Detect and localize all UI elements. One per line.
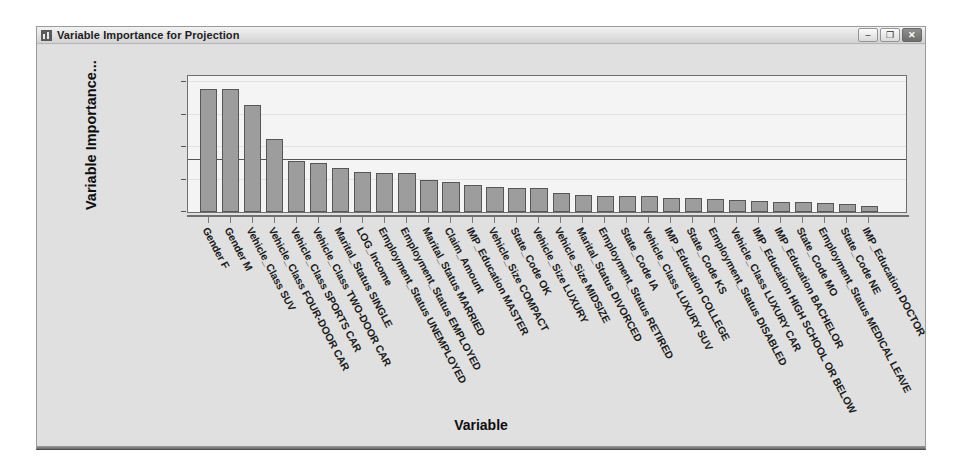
bar [354,172,371,212]
bar [751,201,768,212]
bar [597,196,614,212]
bar [575,195,592,212]
bar [200,89,217,212]
window-title: Variable Importance for Projection [57,29,240,41]
x-tick-mark [406,217,407,223]
x-tick-mark [296,217,297,223]
vip-bar-chart: Variable Importance... 0.00.51.01.52.0 G… [37,45,925,449]
x-tick-mark [560,217,561,223]
x-tick-mark [340,217,341,223]
x-tick-mark [604,217,605,223]
y-tick-mark [181,179,186,180]
chart-bar-icon [41,30,52,41]
bar [773,202,790,212]
x-tick-mark [670,217,671,223]
bar [376,173,393,213]
window-titlebar[interactable]: Variable Importance for Projection – ❐ ✕ [37,27,925,44]
x-axis-tick-labels: Gender FGender MVehicle_Class SUVVehicle… [187,225,927,425]
bar [641,196,658,212]
plot-area [187,75,907,213]
x-tick-mark [428,217,429,223]
x-tick-mark [472,217,473,223]
x-tick-mark [868,217,869,223]
maximize-button[interactable]: ❐ [880,28,900,42]
bar [729,200,746,212]
bar [553,193,570,212]
x-tick-mark [362,217,363,223]
bar [508,188,525,212]
x-tick-mark [230,217,231,223]
bar [420,180,437,212]
y-tick-mark [181,211,186,212]
minimize-icon: – [859,29,877,41]
close-button[interactable]: ✕ [902,28,922,42]
minimize-button[interactable]: – [858,28,878,42]
bar [222,89,239,212]
bar [530,188,547,212]
bar [839,204,856,212]
bar [398,173,415,213]
x-tick-mark [494,217,495,223]
window-bottom-rule [37,446,925,449]
y-tick-mark [181,81,186,82]
bar [464,185,481,212]
x-tick-mark [450,217,451,223]
bar [861,206,878,212]
bar [817,203,834,212]
x-tick-mark [252,217,253,223]
close-icon: ✕ [903,29,921,41]
y-tick-mark [181,114,186,115]
bar [288,161,305,212]
application-window: Variable Importance for Projection – ❐ ✕… [36,26,926,450]
screenshot-root: Variable Importance for Projection – ❐ ✕… [0,0,968,474]
x-tick-mark [692,217,693,223]
bar [619,196,636,212]
x-tick-mark [780,217,781,223]
x-tick-mark [846,217,847,223]
bar [486,187,503,212]
x-tick-mark [824,217,825,223]
x-tick-mark [648,217,649,223]
bar [663,198,680,212]
x-tick-mark [582,217,583,223]
x-tick-mark [208,217,209,223]
bar [244,105,261,213]
bar [795,202,812,212]
maximize-icon: ❐ [881,29,899,41]
x-tick-mark [516,217,517,223]
bar [266,139,283,212]
x-tick-mark [538,217,539,223]
bar [685,198,702,212]
x-tick-mark [802,217,803,223]
window-controls: – ❐ ✕ [858,28,922,42]
bar [332,168,349,212]
x-tick-mark [384,217,385,223]
window-client-area: Variable Importance... 0.00.51.01.52.0 G… [37,45,925,448]
y-tick-mark [181,146,186,147]
x-tick-mark [714,217,715,223]
bar [310,163,327,212]
y-axis-title: Variable Importance... [83,78,99,210]
x-tick-mark [626,217,627,223]
bar [707,199,724,212]
x-tick-mark [736,217,737,223]
x-tick-mark [274,217,275,223]
bar-series [188,76,906,212]
x-tick-mark [318,217,319,223]
x-axis-title: Variable [37,417,925,433]
bar [442,182,459,212]
x-tick-mark [758,217,759,223]
